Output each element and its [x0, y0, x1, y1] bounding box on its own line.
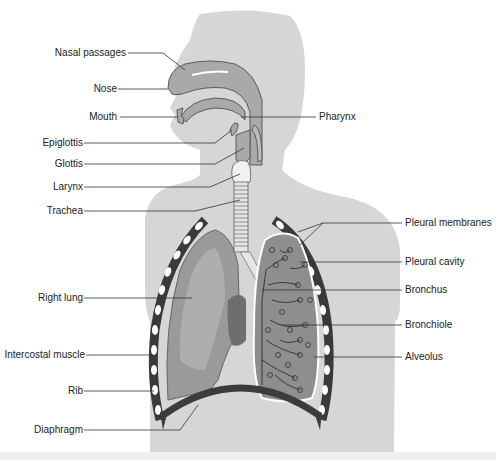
label-mouth: Mouth	[89, 111, 117, 123]
pharynx-tube	[236, 130, 250, 165]
label-pleural-membranes: Pleural membranes	[405, 217, 492, 229]
label-right-lung: Right lung	[38, 292, 83, 304]
label-bronchiole: Bronchiole	[405, 319, 452, 331]
heart-shape	[228, 295, 247, 346]
label-alveolus: Alveolus	[405, 351, 443, 363]
label-pharynx: Pharynx	[319, 111, 356, 123]
label-pleural-cavity: Pleural cavity	[405, 256, 464, 268]
label-larynx: Larynx	[53, 181, 83, 193]
label-trachea: Trachea	[47, 205, 83, 217]
respiratory-diagram: Nasal passages Nose Mouth Epiglottis Glo…	[0, 0, 496, 460]
label-glottis: Glottis	[55, 158, 83, 170]
label-epiglottis: Epiglottis	[42, 137, 83, 149]
label-diaphragm: Diaphragm	[34, 424, 83, 436]
label-rib: Rib	[68, 385, 83, 397]
label-nasal-passages: Nasal passages	[55, 47, 126, 59]
larynx-shape	[232, 161, 251, 184]
bottom-strip	[0, 452, 496, 460]
label-intercostal-muscle: Intercostal muscle	[4, 349, 85, 361]
label-bronchus: Bronchus	[405, 284, 447, 296]
label-nose: Nose	[94, 83, 117, 95]
trachea-rings	[234, 182, 248, 252]
